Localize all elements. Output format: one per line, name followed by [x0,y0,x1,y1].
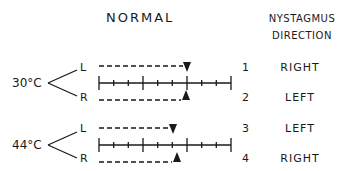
up-triangle-marker-4 [173,152,181,162]
diagram-graphics [0,0,344,171]
down-triangle-marker-3 [169,124,177,134]
down-triangle-marker-1 [183,62,191,72]
scale-30 [99,76,231,90]
branch-lines-44 [48,132,77,158]
up-triangle-marker-2 [182,90,190,100]
scale-44 [99,138,231,152]
branch-lines-30 [48,70,77,96]
